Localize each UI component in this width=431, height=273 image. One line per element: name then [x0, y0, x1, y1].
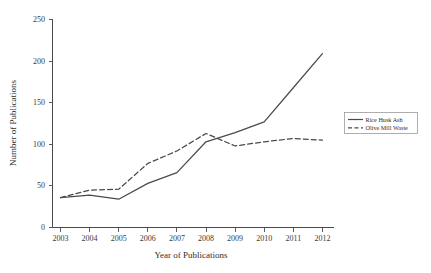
series-line-olive-mill-waste — [61, 133, 323, 197]
x-tick-label-2011: 2011 — [285, 234, 301, 243]
x-axis-title: Year of Publications — [154, 250, 228, 260]
y-tick-marks — [49, 20, 53, 228]
y-tick-label-150: 150 — [33, 98, 45, 107]
y-tick-label-200: 200 — [33, 57, 45, 66]
x-tick-label-2010: 2010 — [256, 234, 272, 243]
y-tick-label-100: 100 — [33, 140, 45, 149]
y-tick-label-250: 250 — [33, 15, 45, 24]
x-tick-label-2005: 2005 — [111, 234, 127, 243]
x-tick-label-2006: 2006 — [140, 234, 156, 243]
x-tick-label-2004: 2004 — [82, 234, 98, 243]
series-group — [61, 54, 323, 200]
legend[interactable]: Rice Husk Ash Olive Mill Waste — [345, 113, 418, 134]
legend-label-olive-mill-waste: Olive Mill Waste — [366, 124, 409, 131]
x-tick-marks — [61, 228, 323, 232]
line-chart-figure: 250 200 150 100 50 0 Number of Publicati… — [0, 0, 431, 273]
x-tick-labels: 2003 2004 2005 2006 2007 2008 2009 2010 … — [53, 234, 331, 243]
y-tick-label-0: 0 — [41, 223, 45, 232]
chart-canvas: 250 200 150 100 50 0 Number of Publicati… — [0, 0, 431, 273]
y-tick-label-50: 50 — [37, 181, 45, 190]
x-tick-label-2003: 2003 — [53, 234, 69, 243]
x-tick-label-2008: 2008 — [198, 234, 214, 243]
series-line-rice-husk-ash — [61, 54, 323, 200]
y-tick-labels: 250 200 150 100 50 0 — [33, 15, 45, 232]
legend-label-rice-husk-ash: Rice Husk Ash — [366, 116, 404, 123]
x-tick-label-2007: 2007 — [169, 234, 185, 243]
y-axis-title: Number of Publications — [8, 80, 18, 166]
x-tick-label-2009: 2009 — [227, 234, 243, 243]
x-tick-label-2012: 2012 — [314, 234, 330, 243]
